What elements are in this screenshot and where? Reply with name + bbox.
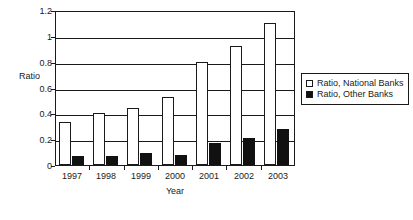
x-axis-tick-mark [192, 166, 193, 170]
x-axis-tick-mark [158, 166, 159, 170]
y-axis-tick-mark [51, 166, 55, 167]
x-axis-tick-label: 1998 [96, 171, 116, 181]
bar-chart: Ratio 00.20.40.60.811.2 1997199819992000… [0, 0, 413, 220]
gridline [56, 90, 294, 91]
bar-national-banks [93, 113, 105, 165]
legend-item-other-banks: Ratio, Other Banks [306, 89, 404, 99]
gridline [56, 38, 294, 39]
legend-label-national-banks: Ratio, National Banks [317, 78, 404, 88]
bar-other-banks [277, 129, 289, 165]
bar-other-banks [140, 153, 152, 165]
bar-national-banks [127, 108, 139, 165]
legend-swatch-icon-open [306, 80, 313, 87]
gridline [56, 115, 294, 116]
bar-national-banks [230, 46, 242, 165]
x-axis-tick-label: 2000 [165, 171, 185, 181]
bar-national-banks [264, 23, 276, 165]
x-axis-tick-label: 2001 [199, 171, 219, 181]
x-axis-tick-label: 1999 [131, 171, 151, 181]
y-axis-title: Ratio [19, 71, 40, 81]
bar-national-banks [162, 97, 174, 165]
gridline [56, 141, 294, 142]
legend-label-other-banks: Ratio, Other Banks [317, 89, 393, 99]
x-axis-tick-mark [226, 166, 227, 170]
x-axis-tick-mark [89, 166, 90, 170]
x-axis-tick-mark [124, 166, 125, 170]
chart-legend: Ratio, National Banks Ratio, Other Banks [301, 73, 409, 105]
plot-area [55, 11, 295, 166]
bar-other-banks [243, 138, 255, 165]
bar-other-banks [106, 156, 118, 165]
bar-other-banks [209, 143, 221, 165]
legend-swatch-icon-filled [306, 91, 313, 98]
bar-national-banks [196, 62, 208, 165]
legend-item-national-banks: Ratio, National Banks [306, 78, 404, 88]
gridline [56, 64, 294, 65]
x-axis-tick-mark [261, 166, 262, 170]
x-axis-tick-label: 2002 [234, 171, 254, 181]
bar-national-banks [59, 122, 71, 165]
x-axis-title: Year [0, 186, 350, 196]
bar-other-banks [72, 156, 84, 165]
x-axis-tick-label: 2003 [268, 171, 288, 181]
x-axis-tick-label: 1997 [62, 171, 82, 181]
bar-other-banks [175, 155, 187, 165]
